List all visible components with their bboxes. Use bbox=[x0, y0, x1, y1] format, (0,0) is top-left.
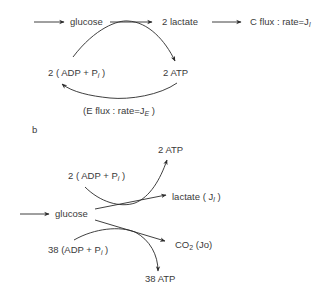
glucose-to-lactate-line bbox=[95, 195, 166, 209]
panel-b-label: b bbox=[32, 125, 37, 135]
atp-top-label-b: 2 ATP bbox=[158, 145, 183, 155]
adp-pi-label-a: 2 ( ADP + Pi ) bbox=[48, 68, 105, 79]
lactate-label-b: lactate ( Jl ) bbox=[172, 192, 221, 203]
lactate-label-a: 2 lactate bbox=[162, 17, 198, 27]
co2-label: CO2 (Jo) bbox=[175, 240, 212, 251]
e-flux-label: (E flux : rate=JE ) bbox=[83, 106, 155, 117]
c-flux-label: C flux : rate=Jl bbox=[250, 17, 310, 28]
glucose-label-b: glucose bbox=[55, 209, 88, 219]
adp-to-2atp-curve bbox=[85, 160, 167, 205]
atp-label-a: 2 ATP bbox=[163, 68, 188, 78]
atp-bottom-label-b: 38 ATP bbox=[145, 274, 175, 284]
glucose-label-a: glucose bbox=[70, 17, 103, 27]
adp-pi-bottom-label-b: 38 (ADP + Pi ) bbox=[48, 245, 108, 256]
atp-to-adp-return-arc bbox=[62, 83, 177, 98]
adp-pi-top-label-b: 2 ( ADP + Pi ) bbox=[68, 171, 125, 182]
